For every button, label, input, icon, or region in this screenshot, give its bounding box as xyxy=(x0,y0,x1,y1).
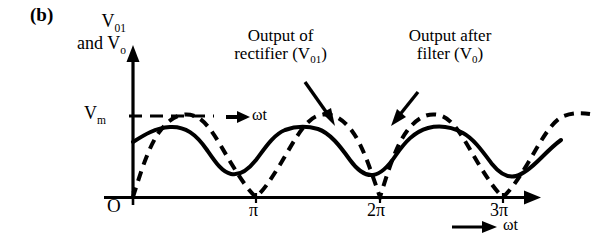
rectifier-callout-line2: rectifier (V01) xyxy=(203,45,358,66)
xtick-label-pi: π xyxy=(249,201,258,220)
y-axis-title-line1: V01 xyxy=(48,12,126,34)
vm-axis-label: Vm xyxy=(84,104,106,126)
xtick-label-2pi: 2π xyxy=(367,201,385,220)
figure-panel-b: (b) V01 and Vo Vm Output of rectifier (V… xyxy=(0,0,613,247)
x-axis xyxy=(104,191,541,205)
x-axis-label: ωt xyxy=(503,216,518,233)
rectifier-callout-line1: Output of xyxy=(203,27,358,45)
filter-callout-line2: filter (V0) xyxy=(375,45,525,66)
origin-label: O xyxy=(107,196,121,217)
y-axis-title: V01 and Vo xyxy=(48,12,126,56)
x-axis-label-arrow xyxy=(452,221,497,233)
inline-omega-arrow xyxy=(226,111,250,123)
filter-output-curve xyxy=(133,127,561,177)
rectifier-output-callout: Output of rectifier (V01) xyxy=(203,27,358,67)
filter-callout-line1: Output after xyxy=(375,27,525,45)
y-axis xyxy=(127,45,140,198)
inline-omega-t-label: ωt xyxy=(252,106,267,123)
rectifier-output-curve xyxy=(133,113,590,197)
y-axis-title-line2: and Vo xyxy=(48,34,126,56)
filter-output-callout: Output after filter (V0) xyxy=(375,27,525,67)
